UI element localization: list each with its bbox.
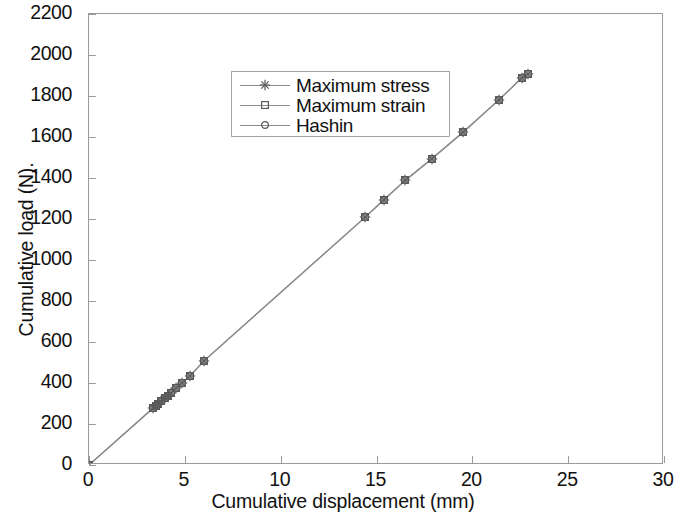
data-point <box>457 126 469 138</box>
data-point <box>399 174 411 186</box>
x-tick-label: 25 <box>557 470 578 490</box>
y-tick <box>89 465 96 466</box>
legend-marker-asterisk-icon <box>238 76 292 94</box>
legend-label: Maximum strain <box>296 96 425 115</box>
legend-label: Hashin <box>296 116 353 135</box>
legend-item-circle: Hashin <box>238 115 449 135</box>
x-tick-label: 10 <box>269 470 290 490</box>
data-point <box>198 355 210 367</box>
data-point <box>522 68 534 80</box>
x-tick-label: 15 <box>365 470 386 490</box>
x-tick <box>664 456 665 463</box>
x-axis-title: Cumulative displacement (mm) <box>0 490 686 513</box>
y-axis-title: Cumulative load (N). <box>15 40 38 460</box>
data-point <box>89 459 95 463</box>
chart-figure: 0200400600800100012001400160018002000220… <box>0 0 686 516</box>
legend-item-square: Maximum strain <box>238 95 449 115</box>
legend: Maximum stressMaximum strainHashin <box>231 71 450 137</box>
legend-label: Maximum stress <box>296 76 429 95</box>
data-point <box>493 94 505 106</box>
data-point <box>426 153 438 165</box>
x-tick-label: 5 <box>179 470 189 490</box>
x-tick-label: 20 <box>461 470 482 490</box>
data-point <box>378 194 390 206</box>
x-tick-label: 30 <box>653 470 674 490</box>
data-point <box>184 370 196 382</box>
legend-marker-circle-icon <box>238 116 292 134</box>
legend-marker-square-icon <box>238 96 292 114</box>
legend-item-asterisk: Maximum stress <box>238 75 449 95</box>
x-tick-label: 0 <box>83 470 93 490</box>
plot-area: Maximum stressMaximum strainHashin <box>88 13 663 464</box>
data-point <box>359 211 371 223</box>
